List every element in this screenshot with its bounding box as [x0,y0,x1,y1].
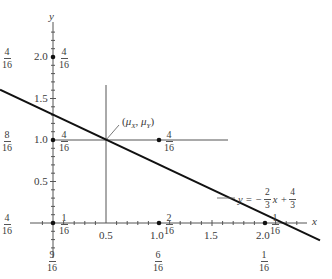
y-axis-label: y [49,11,54,22]
y-tick-2-0: 2.0 [34,51,48,62]
x-tick-2-0: 2.0 [256,230,270,241]
marginal-x-1: 616 [153,250,163,273]
intercept-fraction: 43 [289,188,296,210]
prob-label-0-0: 116 [59,213,69,236]
marginal-x-2: 116 [259,250,269,273]
y-tick-1-5: 1.5 [34,93,48,104]
point-0-1 [51,138,56,143]
x-tick-1-5: 1.5 [204,230,218,241]
prob-label-1-1: 416 [164,130,174,153]
y-tick-0-5: 0.5 [34,176,48,187]
marginal-x-0: 916 [47,250,57,273]
marginal-y-1: 816 [2,130,12,153]
point-0-2 [51,55,56,60]
mean-point-label: (μX, μY) [122,116,154,130]
regression-equation-label: y = − 23 x + 43 [238,188,298,210]
mean-label-leader [106,125,119,140]
y-tick-1-0: 1.0 [34,134,48,145]
prob-label-0-2: 416 [59,47,69,70]
prob-label-1-0: 216 [164,213,174,236]
x-tick-0-5: 0.5 [99,230,113,241]
x-axis-label: x [312,216,317,227]
x-tick-1-0: 1.0 [150,230,164,241]
point-1-1 [157,138,162,143]
slope-fraction: 23 [264,188,271,210]
prob-label-0-1: 416 [59,130,69,153]
marginal-y-0: 416 [2,213,12,236]
marginal-y-2: 416 [2,47,12,70]
prob-label-2-0: 116 [270,213,280,236]
point-0-0 [51,221,56,226]
point-1-0 [157,221,162,226]
point-2-0 [263,221,268,226]
